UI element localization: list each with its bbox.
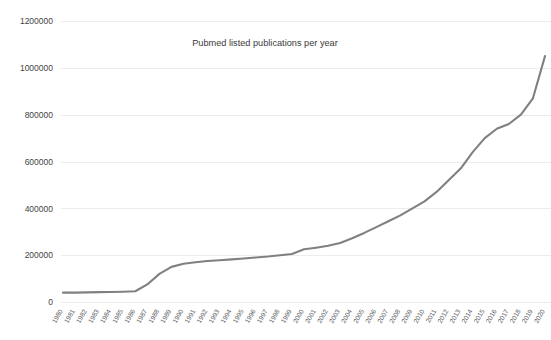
y-axis-tick-labels: 020000040000060000080000010000001200000 [20, 16, 53, 307]
x-axis-tick-label: 2015 [472, 308, 486, 324]
x-axis-tick-label: 1991 [183, 308, 197, 324]
x-axis-tick-label: 2000 [291, 308, 305, 324]
x-axis-tick-label: 1989 [159, 308, 173, 324]
x-axis-tick-label: 2004 [340, 308, 354, 324]
x-axis-tick-label: 2017 [496, 308, 510, 324]
x-axis-tick-label: 1999 [279, 308, 293, 324]
x-axis-tick-label: 2012 [436, 308, 450, 324]
x-axis-tick-label: 1980 [50, 308, 64, 324]
y-axis-tick-label: 800000 [25, 110, 54, 120]
gridlines [61, 22, 551, 303]
x-axis-tick-label: 2005 [352, 308, 366, 324]
x-axis-tick-label: 1987 [135, 308, 149, 324]
y-axis-tick-label: 200000 [25, 250, 54, 260]
x-axis-tick-label: 1998 [267, 308, 281, 324]
chart-title: Pubmed listed publications per year [192, 38, 338, 48]
x-axis-tick-label: 1984 [99, 308, 113, 324]
x-axis-tick-label: 2013 [448, 308, 462, 324]
x-axis-tick-label: 1988 [147, 308, 161, 324]
x-axis-tick-label: 1990 [171, 308, 185, 324]
x-axis-tick-label: 2001 [304, 308, 318, 324]
x-axis-tick-label: 2018 [508, 308, 522, 324]
x-axis-tick-label: 1983 [87, 308, 101, 324]
data-series-line [63, 56, 545, 293]
x-axis-tick-label: 1996 [243, 308, 257, 324]
x-axis-tick-label: 1986 [123, 308, 137, 324]
x-axis-tick-label: 1992 [195, 308, 209, 324]
x-axis-tick-label: 2010 [412, 308, 426, 324]
y-axis-tick-label: 400000 [25, 204, 54, 214]
x-axis-tick-label: 2002 [316, 308, 330, 324]
y-axis-tick-label: 600000 [25, 157, 54, 167]
x-axis-tick-label: 1994 [219, 308, 233, 324]
x-axis-tick-label: 1995 [231, 308, 245, 324]
x-axis-tick-label: 1993 [207, 308, 221, 324]
x-axis-tick-label: 1981 [63, 308, 77, 324]
x-axis-tick-label: 1997 [255, 308, 269, 324]
x-axis-tick-label: 1985 [111, 308, 125, 324]
x-axis-tick-label: 2008 [388, 308, 402, 324]
x-axis-tick-label: 1982 [75, 308, 89, 324]
x-axis-tick-labels: 1980198119821983198419851986198719881989… [50, 308, 546, 324]
x-axis-tick-label: 2007 [376, 308, 390, 324]
x-axis-tick-label: 2016 [484, 308, 498, 324]
x-axis-tick-label: 2006 [364, 308, 378, 324]
x-axis-tick-label: 2020 [532, 308, 546, 324]
line-chart: 020000040000060000080000010000001200000 … [0, 0, 551, 340]
y-axis-tick-label: 1200000 [20, 16, 53, 26]
x-axis-tick-label: 2019 [520, 308, 534, 324]
x-axis-tick-label: 2003 [328, 308, 342, 324]
x-axis-tick-label: 2014 [460, 308, 474, 324]
y-axis-tick-label: 0 [48, 297, 53, 307]
x-axis-tick-label: 2009 [400, 308, 414, 324]
y-axis-tick-label: 1000000 [20, 63, 53, 73]
chart-container: 020000040000060000080000010000001200000 … [0, 0, 551, 340]
